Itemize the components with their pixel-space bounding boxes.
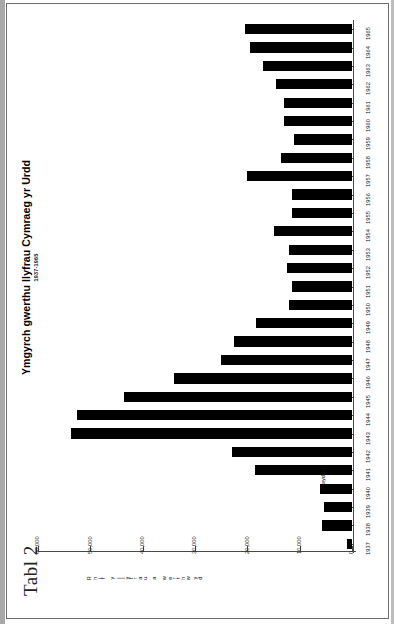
value-tick-label: 60,000 — [34, 536, 40, 554]
value-tick-label: 10,000 — [296, 536, 302, 554]
bar — [247, 171, 352, 181]
bar — [289, 300, 352, 310]
plot-area: 010,00020,00030,00040,00050,00060,000 19… — [34, 20, 354, 552]
value-tick-label: 30,000 — [191, 536, 197, 554]
bar — [292, 208, 352, 218]
bar — [256, 318, 352, 328]
bar — [289, 245, 352, 255]
category-axis-title: Blwyddyn — [320, 430, 326, 490]
bar — [245, 24, 352, 34]
value-tick-label: 50,000 — [87, 536, 93, 554]
chart-title: Ymgyrch gwerthu llyfrau Cymraeg yr Urdd — [20, 123, 32, 413]
value-axis-line — [38, 551, 356, 552]
bar — [347, 539, 352, 549]
bar — [71, 428, 352, 438]
bar — [174, 373, 352, 383]
value-tick-label: 40,000 — [139, 536, 145, 554]
bar — [263, 61, 352, 71]
category-tick-label: 1965 — [365, 16, 371, 40]
bar — [281, 153, 352, 163]
value-axis-title: Rhif y llyfrau a werthwyd — [86, 574, 202, 580]
value-axis-title-char: d — [196, 574, 202, 579]
bar — [255, 465, 352, 475]
bar — [77, 410, 352, 420]
value-axis-title-char: w — [185, 574, 191, 580]
value-tick-label: 0 — [348, 551, 354, 554]
bar — [294, 134, 352, 144]
scanned-page: Tabl 2 Ymgyrch gwerthu llyfrau Cymraeg y… — [0, 0, 394, 624]
bar — [284, 98, 352, 108]
bar — [234, 336, 352, 346]
value-tick-label: 20,000 — [244, 536, 250, 554]
bar — [276, 79, 352, 89]
bar — [250, 42, 352, 52]
bar — [124, 392, 352, 402]
bar — [221, 355, 352, 365]
bar — [232, 447, 352, 457]
bar — [274, 226, 353, 236]
bar — [322, 520, 352, 530]
bar — [284, 116, 352, 126]
bar — [287, 263, 352, 273]
scan-edge-left — [0, 0, 5, 624]
bar — [292, 189, 352, 199]
bar — [324, 502, 352, 512]
bar — [292, 281, 352, 291]
